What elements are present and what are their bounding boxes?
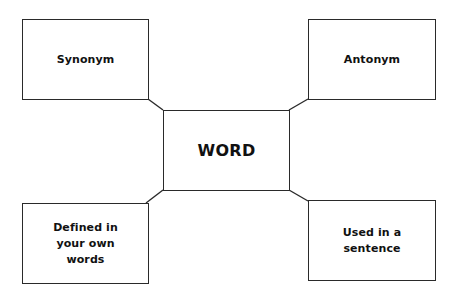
node-sentence: Used in a sentence (308, 200, 436, 281)
node-word-center: WORD (163, 110, 290, 191)
edge-sentence (289, 190, 308, 201)
edge-antonym (289, 99, 308, 110)
node-label: Used in a sentence (337, 225, 407, 257)
edge-defined (146, 190, 163, 203)
node-label: Defined in your own words (40, 220, 132, 268)
node-label: Synonym (57, 52, 115, 68)
edge-synonym (148, 99, 163, 110)
node-antonym: Antonym (308, 19, 436, 100)
node-synonym: Synonym (22, 19, 149, 100)
center-label: WORD (197, 143, 255, 159)
word-map-diagram: Synonym Antonym WORD Defined in your own… (0, 0, 459, 301)
node-defined: Defined in your own words (22, 203, 149, 284)
node-label: Antonym (344, 52, 400, 68)
